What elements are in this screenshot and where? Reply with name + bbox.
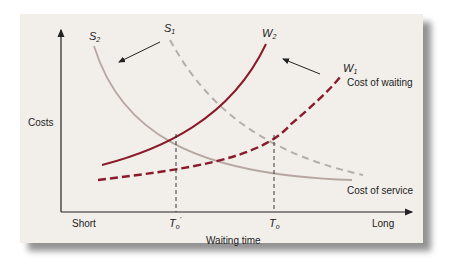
x-axis-label: Waiting time xyxy=(206,235,261,246)
x-tick-long: Long xyxy=(372,218,394,229)
to-prime-label: To' xyxy=(169,216,182,230)
queue-cost-diagram: S2 S1 W2 W1 Cost of waiting Cost of serv… xyxy=(0,0,455,275)
w2-label: W2 xyxy=(262,27,276,40)
x-tick-short: Short xyxy=(72,218,96,229)
cost-of-service-label: Cost of service xyxy=(347,185,414,196)
waiting-shift-arrow xyxy=(283,59,320,74)
to-label: To xyxy=(269,217,280,230)
s1-label: S1 xyxy=(164,22,175,35)
y-axis-label: Costs xyxy=(28,117,54,128)
curve-w1 xyxy=(98,77,340,180)
cost-of-waiting-label: Cost of waiting xyxy=(347,77,413,88)
w1-label: W1 xyxy=(343,62,357,75)
s2-label: S2 xyxy=(89,30,100,43)
service-shift-arrow xyxy=(119,42,160,62)
